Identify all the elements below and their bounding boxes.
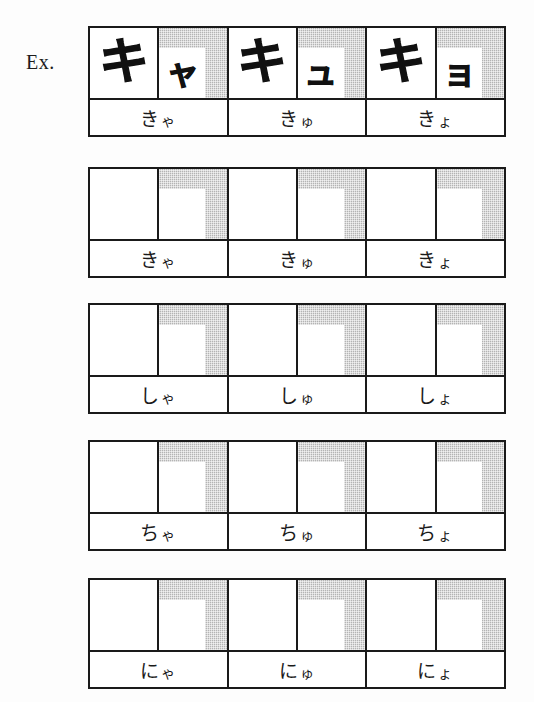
main-kana-cell[interactable]: キ [229, 28, 298, 98]
small-kana-inner-square[interactable] [437, 600, 483, 650]
small-kana-inner-square[interactable] [298, 325, 344, 375]
writing-cells: キョ [367, 28, 504, 98]
small-kana-inner-square[interactable]: ョ [437, 48, 483, 98]
reading-label: きょ [367, 239, 504, 276]
main-kana-cell[interactable] [90, 442, 159, 512]
small-kana-cell[interactable] [437, 442, 504, 512]
main-kana-glyph: キ [90, 28, 157, 98]
small-kana-inner-square[interactable] [437, 189, 483, 239]
example-label: Ex. [26, 52, 55, 72]
main-kana-cell[interactable] [90, 305, 159, 375]
main-kana-cell[interactable] [229, 169, 298, 239]
main-kana-cell[interactable] [367, 305, 436, 375]
main-kana-cell[interactable] [367, 442, 436, 512]
small-kana-glyph [298, 325, 344, 375]
main-kana-glyph [229, 580, 296, 650]
reading-lead-kana: き [417, 245, 438, 272]
small-kana-glyph [159, 600, 205, 650]
small-kana-cell[interactable] [437, 305, 504, 375]
small-kana-glyph: ャ [159, 48, 205, 98]
small-kana-cell[interactable] [159, 169, 226, 239]
main-kana-glyph [367, 169, 434, 239]
reading-small-kana: ょ [438, 524, 454, 544]
writing-cells [90, 305, 227, 375]
main-kana-cell[interactable]: キ [90, 28, 159, 98]
small-kana-inner-square[interactable]: ャ [159, 48, 205, 98]
small-kana-glyph [159, 189, 205, 239]
small-kana-cell[interactable] [298, 580, 365, 650]
main-kana-cell[interactable] [90, 169, 159, 239]
small-kana-cell[interactable] [159, 580, 226, 650]
small-kana-cell[interactable] [159, 442, 226, 512]
main-kana-glyph [229, 169, 296, 239]
small-kana-cell[interactable]: ュ [298, 28, 365, 98]
small-kana-inner-square[interactable] [159, 325, 205, 375]
reading-lead-kana: に [140, 656, 161, 683]
reading-label: きゃ [90, 239, 227, 276]
reading-lead-kana: き [417, 104, 438, 131]
small-kana-inner-square[interactable] [159, 189, 205, 239]
main-kana-glyph [367, 580, 434, 650]
writing-cells: キャ [90, 28, 227, 98]
reading-lead-kana: き [140, 104, 161, 131]
reading-label: きょ [367, 98, 504, 135]
reading-label: きゅ [229, 98, 366, 135]
reading-small-kana: ょ [438, 110, 454, 130]
small-kana-cell[interactable] [298, 169, 365, 239]
small-kana-cell[interactable] [159, 305, 226, 375]
small-kana-inner-square[interactable] [298, 600, 344, 650]
reading-small-kana: ゃ [161, 662, 177, 682]
reading-lead-kana: き [140, 245, 161, 272]
main-kana-cell[interactable] [229, 442, 298, 512]
main-kana-cell[interactable] [367, 169, 436, 239]
reading-label: にゃ [90, 650, 227, 687]
small-kana-inner-square[interactable] [159, 600, 205, 650]
small-kana-glyph [437, 325, 483, 375]
writing-cells [229, 305, 366, 375]
reading-label: ちょ [367, 512, 504, 549]
main-kana-cell[interactable] [90, 580, 159, 650]
main-kana-cell[interactable] [367, 580, 436, 650]
practice-row: きゃきゅきょ [88, 167, 506, 278]
writing-cells [367, 169, 504, 239]
small-kana-glyph [159, 325, 205, 375]
reading-label: しゅ [229, 375, 366, 412]
writing-cells [90, 442, 227, 512]
small-kana-inner-square[interactable] [437, 462, 483, 512]
small-kana-cell[interactable] [437, 580, 504, 650]
group-row: きゃきゅきょ [90, 169, 504, 276]
main-kana-cell[interactable]: キ [367, 28, 436, 98]
reading-lead-kana: し [140, 381, 161, 408]
reading-small-kana: ゅ [300, 251, 316, 271]
main-kana-cell[interactable] [229, 580, 298, 650]
small-kana-inner-square[interactable] [298, 189, 344, 239]
small-kana-cell[interactable] [437, 169, 504, 239]
reading-small-kana: ゃ [161, 524, 177, 544]
writing-cells [229, 169, 366, 239]
reading-lead-kana: ち [140, 518, 161, 545]
main-kana-glyph: キ [229, 28, 296, 98]
main-kana-cell[interactable] [229, 305, 298, 375]
small-kana-cell[interactable]: ャ [159, 28, 226, 98]
small-kana-glyph [298, 462, 344, 512]
small-kana-inner-square[interactable] [437, 325, 483, 375]
small-kana-cell[interactable] [298, 305, 365, 375]
small-kana-cell[interactable] [298, 442, 365, 512]
group-row: キャきゃキュきゅキョきょ [90, 28, 504, 135]
small-kana-inner-square[interactable] [159, 462, 205, 512]
kana-group: にゅ [229, 580, 368, 687]
reading-small-kana: ゅ [300, 387, 316, 407]
reading-lead-kana: ち [279, 518, 300, 545]
kana-group: ちゅ [229, 442, 368, 549]
reading-small-kana: ゅ [300, 524, 316, 544]
small-kana-glyph [437, 462, 483, 512]
practice-row: ちゃちゅちょ [88, 440, 506, 551]
small-kana-inner-square[interactable] [298, 462, 344, 512]
small-kana-inner-square[interactable]: ュ [298, 48, 344, 98]
reading-small-kana: ゅ [300, 662, 316, 682]
main-kana-glyph [229, 442, 296, 512]
writing-cells [229, 442, 366, 512]
reading-small-kana: ゃ [161, 387, 177, 407]
kana-group: きゃ [90, 169, 229, 276]
small-kana-cell[interactable]: ョ [437, 28, 504, 98]
